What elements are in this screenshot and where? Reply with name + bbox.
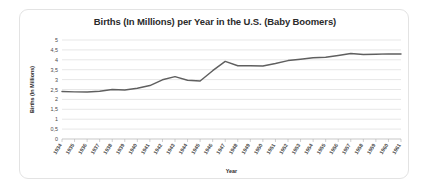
x-tick-label: 1959 [366, 142, 377, 155]
births-series-line [62, 53, 401, 92]
y-tick-label: 1 [55, 116, 58, 122]
plot-area: 54,543,532,521,510,50 193419351936193719… [20, 10, 410, 180]
y-tick-label: 3 [55, 77, 58, 83]
x-axis-tick-labels: 1934193519361937193819391940194119421943… [52, 142, 402, 155]
y-tick-label: 5 [55, 37, 58, 43]
x-tick-label: 1956 [328, 142, 339, 155]
x-tick-label: 1958 [353, 142, 364, 155]
x-tick-label: 1936 [77, 142, 88, 155]
x-tick-label: 1947 [215, 142, 226, 155]
x-tick-label: 1935 [64, 142, 75, 155]
y-tick-label: 0,5 [51, 126, 59, 132]
x-tick-label: 1939 [114, 142, 125, 155]
line-chart-svg: 54,543,532,521,510,50 193419351936193719… [20, 10, 410, 180]
y-tick-label: 1,5 [51, 106, 59, 112]
x-tick-label: 1942 [152, 142, 163, 155]
x-tick-label: 1937 [89, 142, 100, 155]
x-axis-tickmarks [62, 139, 401, 142]
x-tick-label: 1954 [303, 142, 314, 155]
y-tick-label: 4 [55, 57, 58, 63]
x-tick-label: 1940 [127, 142, 138, 155]
y-tick-label: 3,5 [51, 67, 59, 73]
x-tick-label: 1952 [278, 142, 289, 155]
x-tick-label: 1950 [253, 142, 264, 155]
x-tick-label: 1951 [265, 142, 276, 155]
x-tick-label: 1961 [391, 142, 402, 155]
y-axis-tick-labels: 54,543,532,521,510,50 [51, 37, 59, 142]
x-tick-label: 1945 [190, 142, 201, 155]
y-tick-label: 4,5 [51, 47, 59, 53]
x-tick-label: 1949 [240, 142, 251, 155]
y-tick-label: 2,5 [51, 87, 59, 93]
x-tick-label: 1948 [227, 142, 238, 155]
y-tick-label: 0 [55, 136, 58, 142]
x-tick-label: 1946 [202, 142, 213, 155]
x-tick-label: 1934 [52, 142, 63, 155]
x-tick-label: 1938 [102, 142, 113, 155]
x-tick-label: 1944 [177, 142, 188, 155]
x-tick-label: 1955 [315, 142, 326, 155]
x-axis-title: Year [226, 168, 238, 174]
x-tick-label: 1943 [165, 142, 176, 155]
x-tick-label: 1960 [378, 142, 389, 155]
y-axis-title: Births (In Millions) [29, 66, 35, 113]
chart-card: Births (In Millions) per Year in the U.S… [19, 9, 409, 179]
x-tick-label: 1957 [340, 142, 351, 155]
x-tick-label: 1953 [290, 142, 301, 155]
y-tick-label: 2 [55, 96, 58, 102]
x-tick-label: 1941 [140, 142, 151, 155]
